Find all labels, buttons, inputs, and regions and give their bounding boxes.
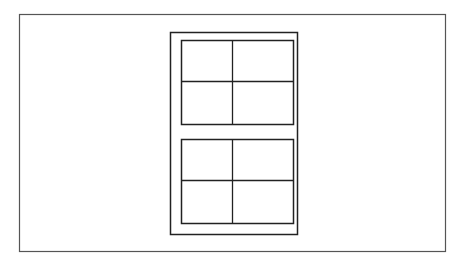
- upper-sash-outline: [182, 41, 294, 125]
- window-diagram: [0, 0, 464, 265]
- upper-sash: [182, 41, 294, 125]
- window-frame: [171, 33, 298, 235]
- lower-sash: [182, 140, 294, 224]
- lower-sash-outline: [182, 140, 294, 224]
